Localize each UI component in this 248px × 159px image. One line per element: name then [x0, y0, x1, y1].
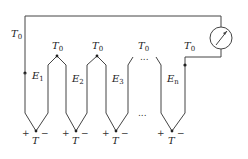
ellipsis-top: ... — [140, 52, 149, 62]
svg-text:+: + — [62, 128, 70, 138]
svg-text:−: − — [177, 128, 185, 138]
t0-label-outer: T0 — [11, 28, 22, 41]
emf-e3: E3 — [111, 73, 124, 86]
svg-text:T: T — [112, 135, 120, 146]
svg-text:−: − — [121, 128, 129, 138]
svg-text:T: T — [168, 135, 176, 146]
emf-e2: E2 — [71, 73, 84, 86]
diagram-canvas: T0 T0 T0 T0 T0 ... ... E1 E2 E3 En + − T… — [0, 0, 248, 159]
svg-text:+: + — [102, 128, 110, 138]
thermocouple-3 — [106, 57, 133, 131]
svg-text:+: + — [157, 128, 165, 138]
thermocouple-n — [156, 57, 185, 131]
t0-label-1: T0 — [52, 40, 63, 53]
t0-label-2: T0 — [92, 40, 103, 53]
svg-text:+: + — [22, 128, 30, 138]
thermopile-diagram: T0 T0 T0 T0 T0 ... ... E1 E2 E3 En + − T… — [0, 0, 248, 159]
emf-en: En — [166, 73, 179, 86]
emf-e1: E1 — [31, 70, 44, 83]
svg-text:−: − — [41, 128, 49, 138]
svg-text:T: T — [32, 135, 40, 146]
svg-text:T: T — [72, 135, 80, 146]
ellipsis-bottom: ... — [138, 108, 147, 118]
thermocouple-2 — [66, 56, 106, 131]
thermocouple-1 — [25, 56, 66, 131]
t0-label-n: T0 — [184, 40, 195, 53]
voltmeter-icon — [210, 27, 232, 49]
svg-text:−: − — [81, 128, 89, 138]
